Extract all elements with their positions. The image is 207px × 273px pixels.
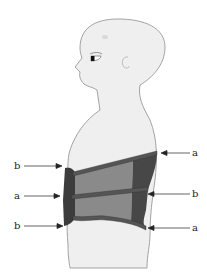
head-shade [102, 35, 108, 39]
arrows-left [24, 164, 63, 229]
label-left-top: b [14, 161, 20, 171]
label-left-middle: a [14, 191, 20, 201]
label-right-middle: b [192, 189, 198, 199]
body-silhouette [67, 19, 165, 268]
label-right-bottom: a [192, 223, 198, 233]
label-left-bottom: b [14, 221, 20, 231]
label-right-top: a [192, 148, 198, 158]
brace-diagram [0, 0, 207, 273]
